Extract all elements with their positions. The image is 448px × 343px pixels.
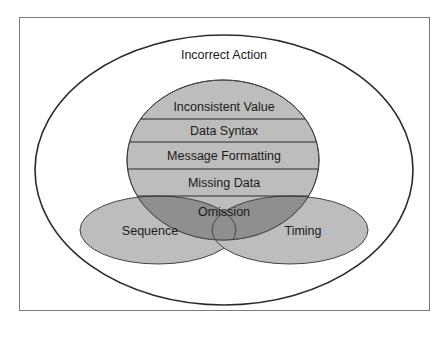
message-formatting-label: Message Formatting [167, 149, 281, 163]
sequence-label: Sequence [122, 224, 178, 238]
missing-data-label: Missing Data [188, 176, 260, 190]
error-taxonomy-diagram: Incorrect Action Inconsistent Value Data… [0, 0, 448, 343]
data-syntax-label: Data Syntax [190, 124, 259, 138]
incorrect-action-label: Incorrect Action [181, 48, 267, 62]
inconsistent-value-label: Inconsistent Value [173, 100, 274, 114]
timing-label: Timing [284, 224, 321, 238]
omission-label: Omission [198, 205, 250, 219]
